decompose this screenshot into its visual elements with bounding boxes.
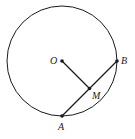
point-m [88,87,92,91]
segment-om [62,61,90,89]
point-o [60,59,64,63]
geometry-diagram: O B A M [0,0,135,139]
label-o: O [50,55,57,66]
label-a: A [57,121,65,132]
point-b [115,59,119,63]
point-a [60,114,64,118]
label-b: B [121,55,127,66]
label-m: M [91,90,101,101]
